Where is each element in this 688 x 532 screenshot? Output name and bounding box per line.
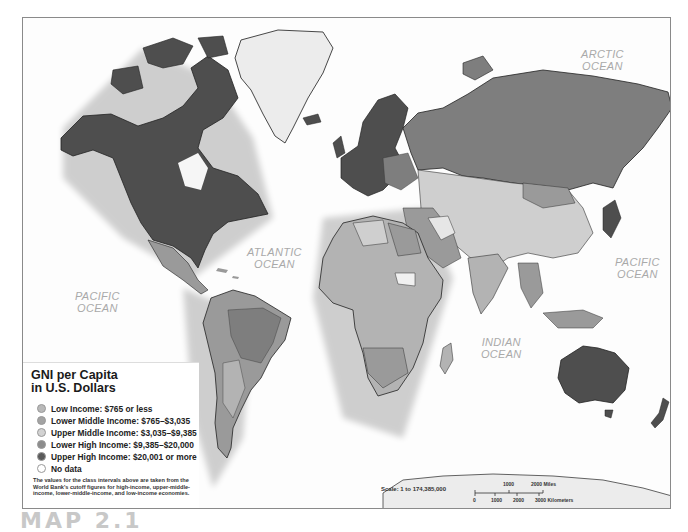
- scale-miles-2000: 2000 Miles: [531, 481, 556, 487]
- legend: GNI per Capita in U.S. Dollars Low Incom…: [23, 362, 199, 509]
- ocean-label-pacific-west: PACIFIC OCEAN: [75, 290, 120, 314]
- legend-note: The values for the class intervals above…: [33, 477, 193, 497]
- legend-item-no-data: No data: [37, 463, 197, 475]
- swatch-upper-middle-icon: [37, 428, 46, 437]
- scale-km-0: 0: [473, 497, 476, 503]
- legend-item-lower-high: Lower High Income: $9,385–$20,000: [37, 439, 197, 451]
- scale-km-1000: 1000: [491, 497, 502, 503]
- legend-item-upper-high: Upper High Income: $20,001 or more: [37, 451, 197, 463]
- ocean-label-arctic: ARCTIC OCEAN: [581, 48, 624, 72]
- legend-list: Low Income: $765 or less Lower Middle In…: [37, 403, 197, 475]
- legend-item-upper-middle: Upper Middle Income: $3,035–$9,385: [37, 427, 197, 439]
- swatch-upper-high-icon: [37, 452, 46, 461]
- swatch-no-data-icon: [37, 464, 46, 473]
- ocean-label-indian: INDIAN OCEAN: [481, 336, 522, 360]
- scale-km-2000: 2000: [513, 497, 524, 503]
- map-caption: MAP 2.1: [20, 508, 143, 532]
- ocean-label-atlantic: ATLANTIC OCEAN: [247, 246, 302, 270]
- legend-item-low: Low Income: $765 or less: [37, 403, 197, 415]
- legend-title: GNI per Capita in U.S. Dollars: [31, 369, 118, 395]
- scale-label: Scale: 1 to 174,385,000: [381, 486, 446, 492]
- swatch-low-icon: [37, 404, 46, 413]
- ocean-label-pacific-east: PACIFIC OCEAN: [615, 256, 660, 280]
- legend-item-lower-middle: Lower Middle Income: $765–$3,035: [37, 415, 197, 427]
- scale-miles-1000: 1000: [503, 481, 514, 487]
- greenland: [235, 30, 333, 143]
- swatch-lower-high-icon: [37, 440, 46, 449]
- australia: [558, 346, 629, 403]
- map-frame: ARCTIC OCEAN ATLANTIC OCEAN PACIFIC OCEA…: [22, 17, 671, 509]
- swatch-lower-middle-icon: [37, 416, 46, 425]
- russia: [403, 70, 671, 190]
- scale-km-3000: 3000 Kilometers: [535, 497, 573, 503]
